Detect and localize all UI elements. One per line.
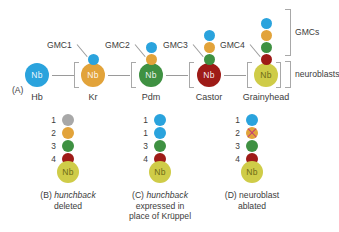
panel-d-number-1: 1 — [230, 116, 240, 124]
panel-c-number-4: 4 — [138, 155, 148, 163]
panel-b-dot-2 — [62, 127, 74, 139]
gene-name: hunchback — [146, 190, 188, 200]
nb-label: Nb — [62, 168, 73, 177]
caption-text: neuroblast ablated — [238, 190, 279, 211]
panel-c-number-3: 3 — [138, 142, 148, 150]
ablation-cross-icon — [246, 127, 258, 139]
link-pdm-castor — [166, 75, 188, 76]
gmc-dot-grainyhead-1 — [261, 18, 272, 29]
gmc-dot-pdm-1 — [146, 42, 157, 53]
bracket-neuroblasts — [285, 61, 291, 88]
caption-text: expressed in place of Krüppel — [129, 201, 191, 222]
panel-d-number-3: 3 — [230, 142, 240, 150]
panel-tag: (B) — [40, 190, 54, 200]
label-gmcs: GMCs — [295, 27, 319, 37]
bracket-gh-left — [247, 62, 252, 88]
gmc-dot-grainyhead-2 — [261, 30, 272, 41]
neuroblast-grainyhead: Nb — [254, 63, 278, 87]
panel-b-number-2: 2 — [46, 129, 56, 137]
bracket-gmcs — [285, 9, 291, 56]
gmc-label-2: GMC2 — [105, 40, 130, 50]
panel-b-dot-1 — [62, 114, 74, 126]
gmc-label-1: GMC1 — [47, 40, 72, 50]
gmc-leader-line-3 — [193, 44, 204, 57]
link-kr-pdm — [108, 75, 130, 76]
nb-label: Nb — [246, 168, 257, 177]
caption-text: deleted — [54, 201, 82, 211]
gmc-dot-grainyhead-4 — [261, 54, 272, 65]
gmc-dot-castor-2 — [204, 42, 215, 53]
gmc-leader-line-1 — [77, 44, 88, 57]
panel-d-dot-3 — [246, 140, 258, 152]
stage-name-grainyhead: Grainyhead — [221, 92, 311, 102]
panel-tag: (D) — [225, 190, 239, 200]
panel-d-number-2: 2 — [230, 129, 240, 137]
panel-c-dot-2 — [154, 127, 166, 139]
link-hb-kr — [52, 75, 74, 76]
panel-c-dot-3 — [154, 140, 166, 152]
panel-d-number-4: 4 — [230, 155, 240, 163]
panel-b-dot-3 — [62, 140, 74, 152]
gmc-label-4: GMC4 — [220, 40, 245, 50]
neuroblast-kr: Nb — [81, 63, 105, 87]
gmc-dot-grainyhead-3 — [261, 42, 272, 53]
panel-tag: (C) — [132, 190, 146, 200]
panel-b-number-4: 4 — [46, 155, 56, 163]
panel-d-dot-1 — [246, 114, 258, 126]
panel-b-neuroblast: Nb — [57, 161, 79, 183]
panel-c-neuroblast: Nb — [149, 161, 171, 183]
gmc-dot-castor-1 — [204, 30, 215, 41]
gmc-leader-line-2 — [135, 44, 146, 57]
nb-label: Nb — [87, 71, 98, 80]
gene-name: hunchback — [54, 190, 96, 200]
nb-label: Nb — [145, 71, 156, 80]
bracket-pdm-left — [131, 62, 136, 88]
nb-label: Nb — [260, 71, 271, 80]
label-neuroblasts: neuroblasts — [295, 69, 339, 79]
panel-c-dot-1 — [154, 114, 166, 126]
nb-label: Nb — [154, 168, 165, 177]
panel-d-caption: (D) neuroblast ablated — [197, 190, 307, 211]
neuroblast-castor: Nb — [197, 63, 221, 87]
bracket-castor-left — [189, 62, 194, 88]
bracket-kr-left — [74, 62, 79, 88]
nb-label: Nb — [203, 71, 214, 80]
panel-b-number-3: 3 — [46, 142, 56, 150]
panel-c-number-2: 1 — [138, 129, 148, 137]
neuroblast-hb: Nb — [25, 63, 49, 87]
gmc-dot-pdm-2 — [146, 54, 157, 65]
panel-d-neuroblast: Nb — [241, 161, 263, 183]
panel-c-number-1: 1 — [138, 116, 148, 124]
gmc-dot-castor-3 — [204, 54, 215, 65]
neuroblast-pdm: Nb — [139, 63, 163, 87]
gmc-leader-line-4 — [250, 44, 261, 57]
nb-label: Nb — [31, 71, 42, 80]
link-castor-gh — [224, 75, 246, 76]
panel-b-number-1: 1 — [46, 116, 56, 124]
gmc-label-3: GMC3 — [163, 40, 188, 50]
gmc-dot-kr-1 — [88, 54, 99, 65]
